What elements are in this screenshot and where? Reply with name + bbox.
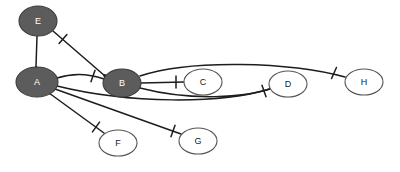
nodes-layer: EABCDHFG — [16, 6, 383, 156]
node-c[interactable]: C — [184, 69, 222, 95]
node-shape — [179, 128, 217, 154]
node-shape — [99, 130, 137, 156]
diagram-canvas: EABCDHFG — [0, 0, 400, 172]
node-g[interactable]: G — [179, 128, 217, 154]
node-f[interactable]: F — [99, 130, 137, 156]
edge-line — [141, 82, 184, 83]
edge-line — [53, 31, 105, 76]
edge-line — [36, 36, 37, 67]
node-shape — [269, 71, 307, 97]
graph-svg: EABCDHFG — [0, 0, 400, 172]
edge-line — [140, 64, 345, 77]
node-h[interactable]: H — [345, 69, 383, 95]
node-shape — [184, 69, 222, 95]
node-shape — [19, 6, 57, 36]
node-d[interactable]: D — [269, 71, 307, 97]
edge-a-b[interactable] — [57, 70, 104, 81]
cardinality-one-tick-icon — [92, 122, 99, 132]
edge-line — [57, 74, 104, 79]
node-a[interactable]: A — [16, 67, 58, 97]
node-shape — [103, 69, 141, 97]
cardinality-one-tick-icon — [332, 68, 337, 79]
node-shape — [16, 67, 58, 97]
edge-b-c[interactable] — [141, 76, 184, 88]
node-b[interactable]: B — [103, 69, 141, 97]
edge-b-h[interactable] — [140, 64, 345, 78]
node-e[interactable]: E — [19, 6, 57, 36]
edge-a-f[interactable] — [49, 93, 104, 133]
node-shape — [345, 69, 383, 95]
